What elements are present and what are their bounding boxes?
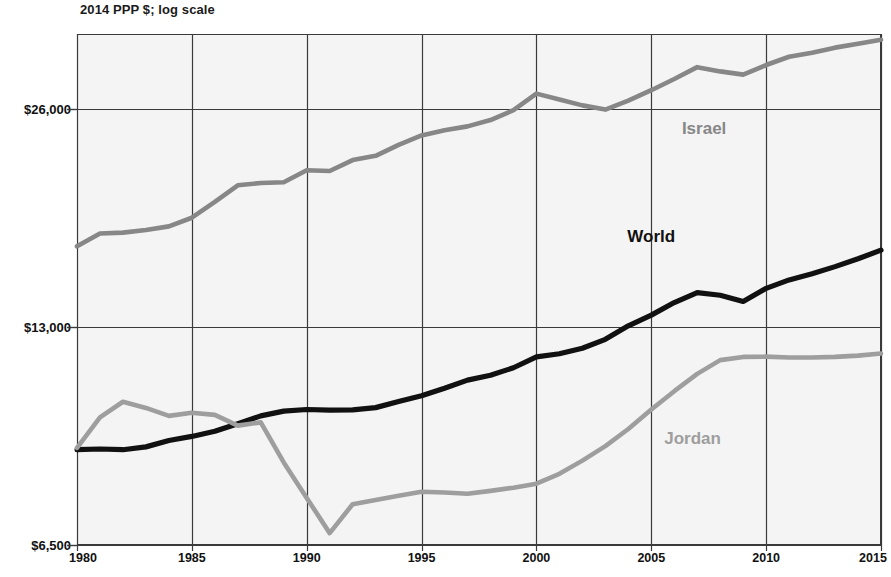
x-axis-tick-label: 2005 bbox=[637, 551, 665, 565]
series-label-jordan: Jordan bbox=[664, 429, 721, 449]
plot-area bbox=[77, 34, 881, 545]
y-axis-tick-label: $13,000 bbox=[24, 319, 71, 334]
axis-note: 2014 PPP $; log scale bbox=[80, 2, 215, 17]
chart-root: 2014 PPP $; log scale $6,500$13,000$26,0… bbox=[0, 0, 891, 577]
x-axis-tick-label: 1985 bbox=[178, 551, 206, 565]
x-axis-tick-label: 1995 bbox=[408, 551, 436, 565]
y-axis-tick-label: $6,500 bbox=[31, 538, 71, 553]
y-axis-labels: $6,500$13,000$26,000 bbox=[0, 0, 71, 577]
x-axis-tick-label: 2015 bbox=[859, 551, 887, 565]
x-axis-tick-label: 2000 bbox=[523, 551, 551, 565]
x-axis-tick-label: 1980 bbox=[69, 551, 97, 565]
y-axis-tick-label: $26,000 bbox=[24, 101, 71, 116]
series-label-world: World bbox=[627, 227, 675, 247]
series-label-israel: Israel bbox=[682, 119, 726, 139]
x-axis-tick-label: 1990 bbox=[293, 551, 321, 565]
x-axis-tick-label: 2010 bbox=[752, 551, 780, 565]
